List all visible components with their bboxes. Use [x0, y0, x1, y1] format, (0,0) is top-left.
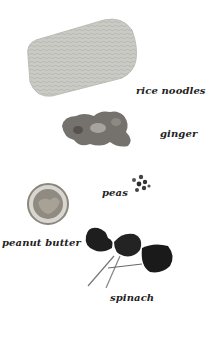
ginger-image [60, 108, 140, 148]
rice-noodles-label: rice noodles [136, 85, 206, 96]
peas-label: peas [102, 187, 128, 198]
peas-image [130, 174, 152, 194]
rice-noodles-image [24, 16, 140, 98]
peanut-butter-image [26, 182, 70, 226]
ginger-label: ginger [160, 128, 197, 139]
peanut-butter-label: peanut butter [2, 237, 81, 248]
spinach-label: spinach [110, 292, 154, 303]
spinach-image [84, 226, 176, 292]
